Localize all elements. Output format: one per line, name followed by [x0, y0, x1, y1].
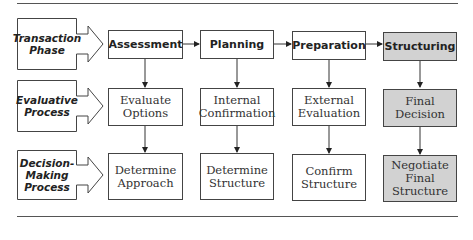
evaluative-box-evaluate-options: EvaluateOptions [108, 88, 183, 126]
decision-box-determine-approach: DetermineApproach [108, 153, 183, 200]
decision-box-determine-structure: DetermineStructure [200, 153, 274, 200]
phase-box-planning: Planning [200, 30, 274, 59]
decision-box-negotiate-final-structure: NegotiateFinalStructure [383, 155, 457, 202]
phase-box-structuring: Structuring [383, 32, 457, 61]
phase-box-assessment: Assessment [108, 30, 183, 59]
evaluative-box-external-evaluation: ExternalEvaluation [292, 88, 366, 126]
evaluative-box-internal-confirmation: InternalConfirmation [200, 88, 274, 126]
phase-box-preparation: Preparation [292, 31, 366, 60]
evaluative-box-final-decision: FinalDecision [383, 89, 457, 127]
decision-box-confirm-structure: ConfirmStructure [292, 154, 366, 201]
